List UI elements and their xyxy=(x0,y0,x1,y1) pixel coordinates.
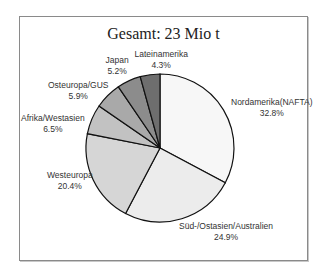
slice-label-name: Afrika/Westasien xyxy=(21,113,85,124)
slice-label: Lateinamerika4.3% xyxy=(135,49,188,71)
slice-label-value: 24.9% xyxy=(179,232,273,243)
slice-label-name: Lateinamerika xyxy=(135,49,188,60)
slice-label-value: 32.8% xyxy=(231,108,313,119)
slice-label-name: Japan xyxy=(106,55,129,66)
slice-label-name: Osteuropa/GUS xyxy=(48,80,108,91)
slice-label: Süd-/Ostasien/Australien24.9% xyxy=(179,221,273,243)
slice-label-value: 20.4% xyxy=(47,181,93,192)
slice-label-name: Nordamerika(NAFTA) xyxy=(231,97,313,108)
slice-label: Japan5.2% xyxy=(106,55,129,77)
slice-label: Afrika/Westasien6.5% xyxy=(21,113,85,135)
slice-label: Osteuropa/GUS5.9% xyxy=(48,80,108,102)
slice-label-name: Westeuropa xyxy=(47,170,93,181)
pie-chart xyxy=(0,0,324,273)
slice-label-name: Süd-/Ostasien/Australien xyxy=(179,221,273,232)
slice-label: Westeuropa20.4% xyxy=(47,170,93,192)
slice-label-value: 5.9% xyxy=(48,91,108,102)
slice-label-value: 5.2% xyxy=(106,66,129,77)
slice-label: Nordamerika(NAFTA)32.8% xyxy=(231,97,313,119)
slice-label-value: 4.3% xyxy=(135,60,188,71)
slice-label-value: 6.5% xyxy=(21,124,85,135)
